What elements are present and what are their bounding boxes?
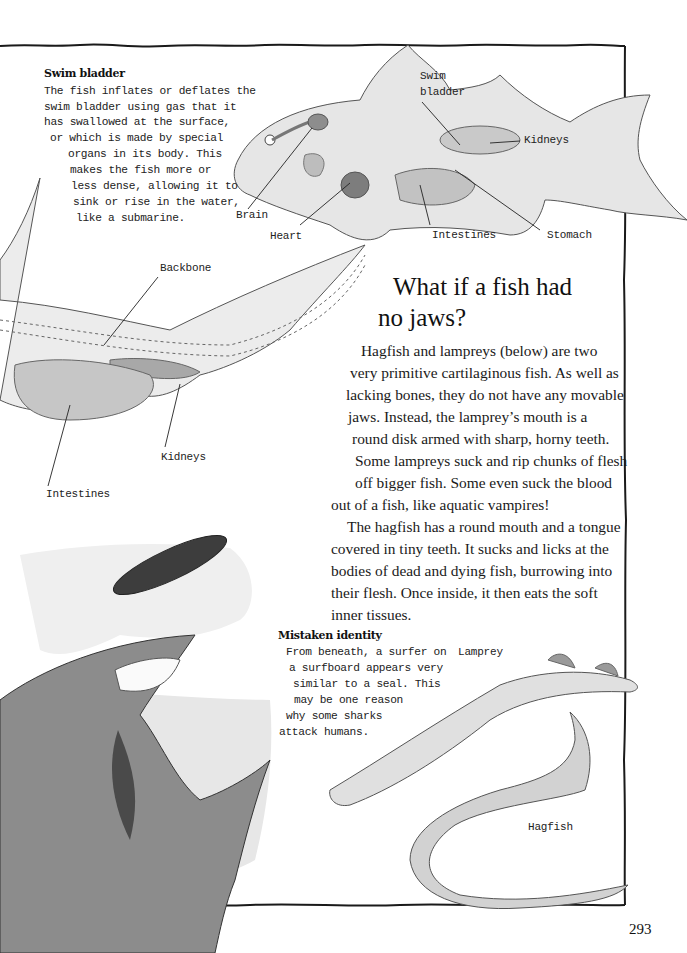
label-kidneys: Kidneys [524, 134, 569, 146]
article-body-line: The hagfish has a round mouth and a tong… [347, 516, 621, 538]
article-body-line: their flesh. Once inside, it then eats t… [331, 582, 598, 604]
mistaken-identity-caption-line: why some sharks [286, 709, 382, 725]
mistaken-identity-caption-line: a surfboard appears very [289, 661, 443, 677]
swim-bladder-caption-line: or which is made by special [50, 131, 223, 147]
swim-bladder-caption-line: sink or rise in the water, [73, 195, 240, 211]
label-stomach: Stomach [547, 229, 592, 241]
swim-bladder-caption: Swim bladder [44, 67, 125, 80]
article-heading: no jaws? [378, 303, 466, 333]
label-shark-kidneys: Kidneys [161, 451, 206, 463]
label-backbone: Backbone [160, 262, 211, 274]
swim-bladder-caption-line: less dense, allowing it to [71, 179, 238, 195]
label-heart: Heart [270, 230, 302, 242]
label-hagfish: Hagfish [528, 821, 573, 833]
mistaken-identity-caption-line: similar to a seal. This [293, 677, 441, 693]
article-body-line: lacking bones, they do not have any mova… [346, 384, 624, 406]
article-body-line: Some lampreys suck and rip chunks of fle… [355, 450, 627, 472]
label-intestines: Intestines [432, 229, 496, 241]
article-body-line: jaws. Instead, the lamprey’s mouth is a [348, 406, 587, 428]
mistaken-identity-caption-line: attack humans. [279, 725, 369, 741]
swim-bladder-caption-line: The fish inflates or deflates the [44, 84, 256, 100]
article-body-line: round disk armed with sharp, horny teeth… [352, 428, 609, 450]
swim-bladder-caption-line: organs in its body. This [68, 147, 222, 163]
swim-bladder-caption-line: like a submarine. [76, 211, 185, 227]
label-shark-intestines: Intestines [46, 488, 110, 500]
swim-bladder-caption-line: makes the fish more or [70, 163, 211, 179]
swim-bladder-caption-line: has swallowed at the surface, [44, 115, 230, 131]
bony-fish-illustration [234, 45, 687, 240]
page-number: 293 [629, 921, 652, 938]
article-body-line: bodies of dead and dying fish, burrowing… [331, 560, 612, 582]
mistaken-identity-caption-line: From beneath, a surfer on [286, 645, 446, 661]
label-brain: Brain [236, 209, 268, 221]
swim-bladder-caption-line: swim bladder using gas that it [44, 100, 236, 116]
label-swim-bladder: Swim [420, 70, 446, 82]
mistaken-identity-caption-title: Mistaken identity [278, 629, 382, 642]
article-body-line: inner tissues. [331, 604, 411, 626]
label-lamprey: Lamprey [458, 646, 503, 658]
article-body-line: Hagfish and lampreys (below) are two [361, 340, 597, 362]
article-body-line: very primitive cartilaginous fish. As we… [350, 362, 619, 384]
article-heading: What if a fish had [393, 272, 572, 302]
article-body-line: off bigger fish. Some even suck the bloo… [355, 472, 612, 494]
shark-and-surfer-illustration [0, 525, 271, 953]
mistaken-identity-caption-line: may be one reason [294, 693, 403, 709]
article-body-line: out of a fish, like aquatic vampires! [331, 494, 549, 516]
swim-bladder-caption-title: Swim bladder [44, 67, 125, 80]
label-swim-bladder: bladder [420, 86, 465, 98]
article-body-line: covered in tiny teeth. It sucks and lick… [331, 538, 609, 560]
